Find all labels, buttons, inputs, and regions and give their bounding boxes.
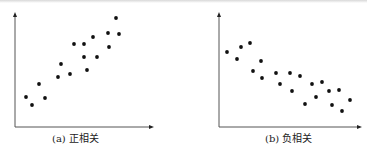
data-point: [337, 88, 341, 92]
data-point: [82, 55, 86, 59]
data-point: [340, 109, 344, 113]
data-point: [95, 55, 99, 59]
data-point: [225, 50, 229, 54]
data-point: [24, 95, 28, 99]
data-point: [320, 80, 324, 84]
data-point: [72, 42, 76, 46]
data-point: [82, 42, 86, 46]
data-point: [106, 31, 110, 35]
data-point: [314, 95, 318, 99]
data-point: [303, 102, 307, 106]
data-point: [260, 76, 264, 80]
data-point: [56, 75, 60, 79]
data-point: [330, 103, 334, 107]
data-point: [288, 71, 292, 75]
data-point: [91, 35, 95, 39]
scatter-plots: [0, 0, 367, 151]
scatter-negative-correlation: [217, 12, 362, 129]
x-axis-arrow-icon: [149, 125, 154, 129]
data-point: [239, 45, 243, 49]
data-point: [43, 96, 47, 100]
data-point: [259, 59, 263, 63]
y-axis-arrow-icon: [13, 12, 17, 17]
data-point: [348, 98, 352, 102]
data-point: [248, 41, 252, 45]
caption-positive-correlation: (a) 正相关: [52, 130, 99, 145]
x-axis-arrow-icon: [357, 125, 362, 129]
data-point: [117, 32, 121, 36]
data-point: [59, 62, 63, 66]
scatter-positive-correlation: [13, 12, 154, 129]
data-point: [85, 68, 89, 72]
caption-negative-correlation: (b) 负相关: [265, 130, 312, 145]
data-point: [274, 71, 278, 75]
data-point: [68, 72, 72, 76]
data-point: [114, 16, 118, 20]
y-axis-arrow-icon: [217, 12, 221, 17]
data-point: [37, 82, 41, 86]
data-point: [107, 45, 111, 49]
data-point: [327, 89, 331, 93]
data-point: [278, 82, 282, 86]
data-point: [298, 74, 302, 78]
data-point: [310, 82, 314, 86]
data-point: [235, 57, 239, 61]
data-point: [290, 89, 294, 93]
data-point: [30, 103, 34, 107]
data-point: [251, 69, 255, 73]
